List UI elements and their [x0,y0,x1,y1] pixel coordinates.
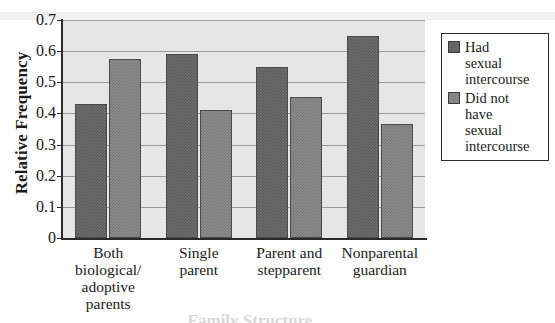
x-axis-title: Family Structure [140,311,360,323]
plot-area [63,20,425,238]
x-category-label-3: Nonparentalguardian [328,244,432,278]
x-category-label-0-line-2: adoptive [56,278,160,295]
legend-label-1-line-1: have [465,106,529,122]
bar-group-0-series-0 [75,104,107,238]
legend-swatch-0 [448,41,460,53]
y-tick-label-6: 0.6 [22,43,56,59]
y-tick-label-2: 0.2 [22,168,56,184]
x-category-label-0: Bothbiological/adoptiveparents [56,244,160,312]
y-tick-label-0: 0 [22,230,56,246]
x-category-label-2-line-0: Parent and [237,244,341,261]
bar-group-2-series-1 [290,97,322,238]
bar-group-3-series-0 [347,36,379,238]
x-category-label-1: Singleparent [147,244,251,278]
legend-label-0: Hadsexualintercourse [465,39,529,87]
bar-chart-figure: Relative Frequency 00.10.20.30.40.50.60.… [0,0,555,323]
x-category-label-1-line-1: parent [147,261,251,278]
legend-label-0-line-1: sexual [465,55,529,71]
y-tick-label-3: 0.3 [22,137,56,153]
x-category-label-2-line-1: stepparent [237,261,341,278]
figure-top-band [0,12,555,20]
legend-label-1-line-2: sexual [465,122,529,138]
bar-group-1-series-1 [200,110,232,238]
gridline-7 [63,20,425,21]
legend-label-0-line-2: intercourse [465,71,529,87]
legend-swatch-1 [448,92,460,104]
x-category-label-0-line-1: biological/ [56,261,160,278]
x-category-label-1-line-0: Single [147,244,251,261]
legend-label-1-line-3: intercourse [465,138,529,154]
legend-label-0-line-0: Had [465,39,529,55]
x-category-label-0-line-3: parents [56,295,160,312]
legend-entry-0[interactable]: Hadsexualintercourse [448,39,542,87]
y-axis-tick-labels: 00.10.20.30.40.50.60.7 [22,0,56,323]
chart-legend: HadsexualintercourseDid nothavesexualint… [441,33,549,161]
legend-entry-1[interactable]: Did nothavesexualintercourse [448,90,542,154]
legend-label-1-line-0: Did not [465,90,529,106]
x-category-label-3-line-1: guardian [328,261,432,278]
x-category-label-2: Parent andstepparent [237,244,341,278]
x-axis-line [61,238,427,240]
x-category-label-0-line-0: Both [56,244,160,261]
x-category-label-3-line-0: Nonparental [328,244,432,261]
bar-group-1-series-0 [166,54,198,238]
y-tick-label-4: 0.4 [22,105,56,121]
bar-group-3-series-1 [381,124,413,238]
y-tick-label-1: 0.1 [22,199,56,215]
y-tick-label-5: 0.5 [22,74,56,90]
legend-label-1: Did nothavesexualintercourse [465,90,529,154]
y-tick-label-7: 0.7 [22,12,56,28]
bar-group-0-series-1 [109,59,141,238]
bar-group-2-series-0 [256,67,288,238]
